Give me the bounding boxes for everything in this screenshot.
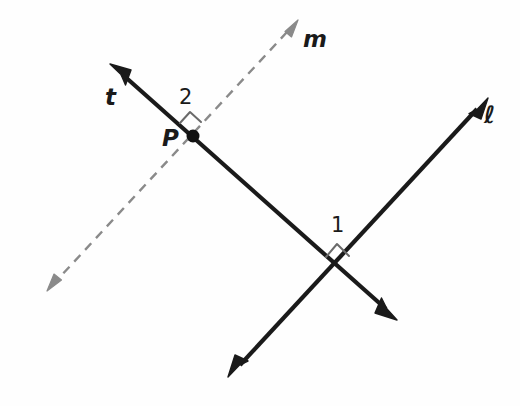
- geometry-canvas: [0, 0, 520, 406]
- line-m-arrowhead-lower: [47, 274, 62, 291]
- right-angle-mark-2: [180, 112, 201, 123]
- geometry-diagram: t m ℓ P 2 1: [0, 0, 520, 406]
- line-t: [110, 64, 397, 320]
- line-m: [47, 20, 298, 291]
- line-m-arrowhead-upper: [285, 20, 298, 37]
- line-ell-shaft: [240, 109, 477, 365]
- point-p-label: P: [162, 127, 179, 150]
- line-m-shaft: [59, 32, 287, 278]
- line-t-shaft: [122, 74, 386, 309]
- angle-1-label: 1: [331, 215, 344, 236]
- angle-2-label: 2: [179, 87, 192, 108]
- line-t-label: t: [105, 86, 116, 109]
- line-m-label: m: [303, 28, 327, 51]
- point-p-marker: [187, 130, 200, 143]
- line-ell: [228, 98, 488, 377]
- line-ell-label: ℓ: [484, 103, 495, 127]
